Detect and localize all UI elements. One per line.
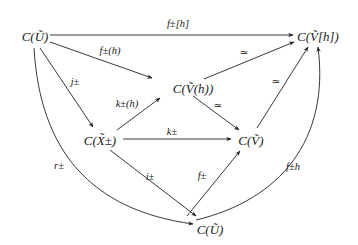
node-cu-bottom: C(Ũ) xyxy=(197,223,224,236)
label-i: i± xyxy=(146,172,155,183)
node-cv-paren-h: C(Ṽ(h)) xyxy=(173,82,213,95)
node-cv: C(Ṽ) xyxy=(238,134,263,147)
label-iso-2: ≃ xyxy=(214,101,223,112)
label-k-h: k±(h) xyxy=(116,99,139,110)
node-cv-bracket-h: C(Ṽ[h]) xyxy=(297,30,339,43)
label-iso-3: ≃ xyxy=(272,77,281,88)
label-r: r± xyxy=(54,161,64,172)
label-f-paren: f±(h) xyxy=(100,46,121,57)
label-j: j± xyxy=(71,77,80,88)
node-cx-pm: C(X̃±) xyxy=(84,134,116,147)
label-f-h: f±h xyxy=(286,162,300,173)
arrow-f xyxy=(187,151,240,216)
label-k: k± xyxy=(167,127,177,138)
arrow-iso-1 xyxy=(204,42,294,79)
label-f-bracket: f±[h] xyxy=(167,19,189,30)
label-f: f± xyxy=(198,171,207,182)
arrow-i xyxy=(110,150,196,216)
arrow-iso-3 xyxy=(257,47,308,128)
label-iso-1: ≃ xyxy=(240,48,249,59)
arrow-j xyxy=(40,48,93,127)
node-cu-top: C(Ũ) xyxy=(22,30,49,43)
